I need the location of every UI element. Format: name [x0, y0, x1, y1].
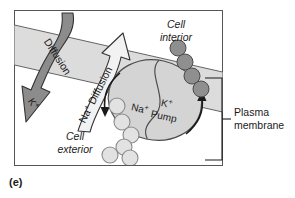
cell-interior-label-line2: interior	[160, 31, 193, 43]
na-ion	[122, 150, 138, 166]
figure-caption: (e)	[9, 176, 22, 188]
k-ion	[177, 54, 193, 70]
na-ion	[109, 98, 125, 114]
plasma-membrane-label-line2: membrane	[234, 119, 284, 131]
cell-exterior-label-line2: exterior	[57, 143, 93, 155]
na-ion	[102, 147, 118, 163]
cell-exterior-label-line1: Cell	[66, 130, 85, 142]
plasma-membrane-label-line1: Plasma	[234, 106, 269, 118]
membrane-pump-diagram: Diffusion K+ Na+ Diffusion Na+ K+ Pump	[0, 0, 295, 198]
figure-container: Diffusion K+ Na+ Diffusion Na+ K+ Pump	[0, 0, 295, 198]
k-ion	[193, 81, 209, 97]
cell-interior-label-line1: Cell	[167, 18, 186, 30]
